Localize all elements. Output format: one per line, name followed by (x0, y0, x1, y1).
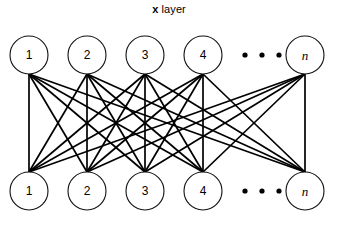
node-bottom-2: 2 (68, 172, 106, 210)
ellipsis-dot (276, 188, 281, 193)
ellipsis-dot (242, 188, 247, 193)
node-label: 1 (26, 184, 33, 198)
ellipsis-dot (259, 188, 264, 193)
network-diagram-figure: x layer 1234n1234n (0, 0, 338, 231)
node-label: 2 (84, 184, 91, 198)
ellipsis-dot (242, 52, 247, 57)
edges-group (29, 74, 305, 172)
ellipsis-dot (276, 52, 281, 57)
node-label: 3 (142, 184, 149, 198)
network-graph: 1234n1234n (0, 0, 338, 231)
ellipsis-dot (259, 52, 264, 57)
node-bottom-1: 1 (10, 172, 48, 210)
node-label: 1 (26, 48, 33, 62)
node-label: n (302, 184, 309, 199)
node-top-3: 3 (126, 36, 164, 74)
ellipsis-group (242, 52, 281, 193)
node-top-1: 1 (10, 36, 48, 74)
node-bottom-3: 3 (126, 172, 164, 210)
node-label: n (302, 48, 309, 63)
node-label: 2 (84, 48, 91, 62)
node-label: 4 (200, 48, 207, 62)
node-top-4: 4 (184, 36, 222, 74)
node-top-n: n (286, 36, 324, 74)
node-top-2: 2 (68, 36, 106, 74)
node-label: 4 (200, 184, 207, 198)
node-bottom-n: n (286, 172, 324, 210)
node-bottom-4: 4 (184, 172, 222, 210)
node-label: 3 (142, 48, 149, 62)
